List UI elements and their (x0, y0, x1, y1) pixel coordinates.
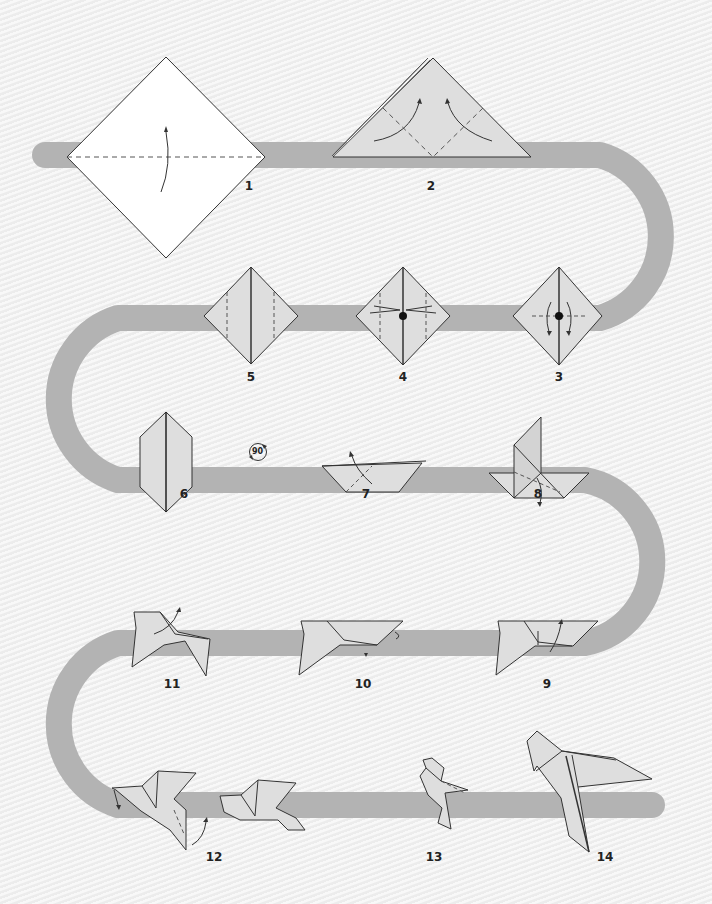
step-label-9: 9 (543, 677, 551, 691)
step-label-1: 1 (245, 179, 253, 193)
step-label-7: 7 (362, 487, 370, 501)
step-label-6: 6 (180, 487, 188, 501)
step-label-3: 3 (555, 370, 563, 384)
step-14-figure (527, 731, 652, 852)
step-5-figure (204, 267, 298, 364)
step-label-8: 8 (534, 487, 542, 501)
step-1-figure (67, 57, 265, 258)
step-label-10: 10 (355, 677, 372, 691)
step-label-5: 5 (247, 370, 255, 384)
step-label-12: 12 (206, 850, 223, 864)
step-label-2: 2 (427, 179, 435, 193)
step-4-figure (356, 267, 450, 365)
origami-diagram (0, 0, 712, 904)
step-label-14: 14 (597, 850, 614, 864)
step-11-figure (132, 607, 210, 676)
step-2-figure (332, 58, 531, 157)
rotate-90-label: 90 (252, 447, 263, 456)
step-3-figure (513, 267, 602, 365)
step-label-11: 11 (164, 677, 181, 691)
step-label-13: 13 (426, 850, 443, 864)
step-label-4: 4 (399, 370, 407, 384)
